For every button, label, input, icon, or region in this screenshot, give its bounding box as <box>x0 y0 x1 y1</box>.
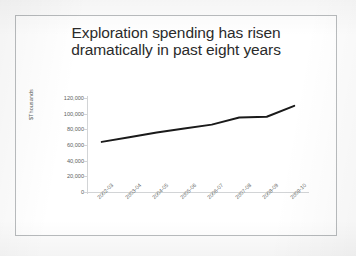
slide-canvas: Exploration spending has risen dramatica… <box>16 16 336 235</box>
scanned-slide-page: Exploration spending has risen dramatica… <box>0 0 356 256</box>
chart-plot-area <box>16 16 336 235</box>
series-line-exploration-spending <box>102 106 295 142</box>
